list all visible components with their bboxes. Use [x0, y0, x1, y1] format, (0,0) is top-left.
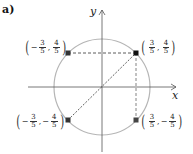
fraction: 35 [39, 40, 45, 55]
point-label-q4: ( 35 , − 45 ) [140, 113, 183, 130]
fraction: 45 [53, 40, 59, 55]
point-q1 [134, 51, 139, 56]
x-axis-label: x [172, 89, 178, 102]
fraction: 45 [163, 40, 169, 55]
fraction: 45 [169, 114, 175, 129]
point-q4 [134, 118, 139, 123]
point-label-q3: ( − 35 , − 45 ) [15, 113, 65, 130]
fraction: 45 [51, 114, 57, 129]
point-label-q2: ( − 35 , 45 ) [24, 39, 67, 56]
y-axis-label: y [90, 5, 96, 18]
fraction: 35 [149, 40, 155, 55]
fraction: 35 [30, 114, 36, 129]
point-q3 [66, 118, 71, 123]
fraction: 35 [149, 114, 155, 129]
point-label-q1: ( 35 , 45 ) [140, 39, 177, 56]
unit-circle-diagram [0, 0, 193, 154]
